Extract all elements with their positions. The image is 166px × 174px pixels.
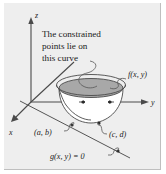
figure-panel: z y x — [4, 3, 161, 170]
caption-line-3: this curve — [42, 53, 78, 63]
z-axis-arrowhead — [28, 17, 33, 24]
constraint-label: g(x, y) = 0 — [50, 152, 85, 161]
z-axis-label: z — [34, 11, 39, 20]
point-cd-leader-curve — [98, 124, 107, 134]
point-ab-label: (a, b) — [34, 128, 52, 137]
surface-label: f(x, y) — [128, 70, 147, 79]
z-axis — [28, 17, 33, 102]
caption-line-1: The constrained — [42, 29, 101, 39]
point-cd-label: (c, d) — [109, 130, 127, 139]
y-axis-label: y — [150, 98, 155, 107]
constrained-optimization-diagram: z y x — [4, 3, 160, 169]
bowl-rim-left-connector — [57, 85, 60, 89]
bowl-rim-right-connector — [123, 85, 126, 89]
point-cd-leader — [98, 124, 107, 134]
caption-line-2: points lie on — [42, 41, 88, 51]
x-axis-line-negative — [15, 102, 31, 118]
x-axis-label: x — [8, 128, 13, 137]
figure-root: z y x — [0, 0, 166, 174]
paraboloid-surface — [57, 75, 126, 124]
y-axis-arrowhead — [141, 99, 149, 105]
